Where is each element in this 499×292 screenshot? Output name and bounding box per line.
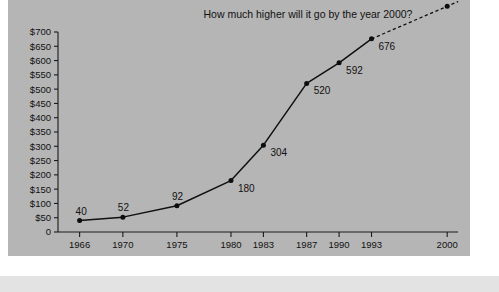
data-point-markers xyxy=(77,4,450,223)
y-tick-label: $400 xyxy=(30,112,51,123)
y-tick-label: $200 xyxy=(30,169,51,180)
x-tick-label: 1990 xyxy=(329,239,350,250)
y-axis-ticks xyxy=(54,32,58,232)
data-point-marker xyxy=(369,36,374,41)
data-point-label: 592 xyxy=(346,65,363,76)
x-tick-label: 1987 xyxy=(296,239,317,250)
y-tick-label: $50 xyxy=(35,212,51,223)
x-axis-ticks xyxy=(80,232,448,237)
x-axis-tick-labels: 196619701975198019831987199019932000 xyxy=(69,239,458,250)
y-tick-label: $650 xyxy=(30,41,51,52)
data-point-marker xyxy=(77,218,82,223)
data-point-label: 520 xyxy=(314,85,331,96)
y-tick-label: $600 xyxy=(30,55,51,66)
data-point-label: 92 xyxy=(172,191,184,202)
chart-title: How much higher will it go by the year 2… xyxy=(204,8,413,20)
x-tick-label: 1975 xyxy=(166,239,187,250)
x-tick-label: 1966 xyxy=(69,239,90,250)
data-point-marker xyxy=(120,215,125,220)
y-tick-label: 0 xyxy=(46,226,51,237)
y-tick-label: $350 xyxy=(30,126,51,137)
data-point-marker xyxy=(174,203,179,208)
y-tick-label: $300 xyxy=(30,141,51,152)
x-tick-label: 1970 xyxy=(112,239,133,250)
data-point-label: 52 xyxy=(118,202,130,213)
y-tick-label: $150 xyxy=(30,184,51,195)
data-point-marker xyxy=(228,178,233,183)
x-tick-label: 1993 xyxy=(361,239,382,250)
data-point-marker xyxy=(445,4,450,9)
x-tick-label: 1983 xyxy=(253,239,274,250)
data-point-marker xyxy=(304,81,309,86)
y-tick-label: $100 xyxy=(30,198,51,209)
x-tick-label: 1980 xyxy=(220,239,241,250)
data-point-label: 180 xyxy=(238,183,255,194)
y-tick-label: $500 xyxy=(30,84,51,95)
line-chart: How much higher will it go by the year 2… xyxy=(8,0,470,256)
data-point-label: 40 xyxy=(76,206,88,217)
y-tick-label: $250 xyxy=(30,155,51,166)
footer-band xyxy=(0,276,499,292)
chart-panel: How much higher will it go by the year 2… xyxy=(8,0,470,256)
data-point-labels: 405292180304520592676 xyxy=(76,41,396,217)
data-point-label: 304 xyxy=(270,147,287,158)
y-tick-label: $450 xyxy=(30,98,51,109)
y-tick-label: $550 xyxy=(30,69,51,80)
series-line-solid xyxy=(80,39,372,221)
data-point-marker xyxy=(337,60,342,65)
data-point-label: 676 xyxy=(379,41,396,52)
x-tick-label: 2000 xyxy=(437,239,458,250)
data-point-marker xyxy=(261,143,266,148)
y-tick-label: $700 xyxy=(30,26,51,37)
y-axis-tick-labels: 0$50$100$150$200$250$300$350$400$450$500… xyxy=(30,26,51,237)
